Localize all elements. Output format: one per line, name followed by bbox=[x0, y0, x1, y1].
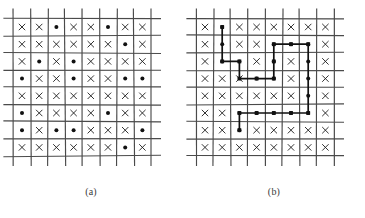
mark-x bbox=[202, 110, 208, 116]
path-node bbox=[220, 60, 224, 64]
grid-line-horizontal bbox=[3, 105, 161, 106]
mark-x bbox=[88, 58, 94, 64]
mark-x bbox=[202, 41, 208, 47]
mark-x bbox=[36, 24, 42, 30]
mark-x bbox=[253, 127, 259, 133]
panel-b-canvas bbox=[183, 0, 365, 188]
mark-x bbox=[122, 58, 128, 64]
grid-line-horizontal bbox=[186, 52, 344, 53]
mark-x bbox=[70, 110, 76, 116]
mark-x bbox=[271, 144, 277, 150]
mark-x bbox=[70, 144, 76, 150]
mark-x bbox=[219, 127, 225, 133]
mark-x bbox=[88, 75, 94, 81]
mark-x bbox=[19, 58, 25, 64]
mark-dot bbox=[72, 128, 76, 132]
mark-x bbox=[88, 41, 94, 47]
mark-x bbox=[19, 24, 25, 30]
mark-x bbox=[88, 24, 94, 30]
grid-line-horizontal bbox=[186, 104, 344, 105]
path-node bbox=[272, 42, 276, 46]
mark-x bbox=[139, 24, 145, 30]
mark-x bbox=[288, 58, 294, 64]
mark-x bbox=[70, 41, 76, 47]
mark-x bbox=[322, 58, 328, 64]
path-node bbox=[255, 111, 259, 115]
mark-x bbox=[219, 93, 225, 99]
mark-x bbox=[322, 144, 328, 150]
grid-line-horizontal bbox=[186, 121, 344, 122]
mark-x bbox=[202, 58, 208, 64]
mark-x bbox=[19, 144, 25, 150]
panel-a-grid-svg bbox=[0, 0, 182, 188]
mark-x bbox=[253, 24, 259, 30]
mark-x bbox=[305, 144, 311, 150]
panel-b: (b) bbox=[183, 0, 365, 218]
panel-b-caption: (b) bbox=[183, 186, 365, 197]
mark-x bbox=[19, 41, 25, 47]
mark-x bbox=[253, 144, 259, 150]
mark-x bbox=[219, 144, 225, 150]
mark-x bbox=[53, 144, 59, 150]
path-node bbox=[255, 77, 259, 81]
mark-x bbox=[36, 110, 42, 116]
mark-x bbox=[53, 58, 59, 64]
mark-x bbox=[139, 41, 145, 47]
panel-a-caption: (a) bbox=[0, 186, 182, 197]
mark-dot bbox=[123, 42, 127, 46]
panel-b-grid-svg bbox=[183, 0, 365, 188]
mark-x bbox=[253, 41, 259, 47]
mark-x bbox=[36, 127, 42, 133]
mark-x bbox=[236, 93, 242, 99]
mark-dot bbox=[123, 77, 127, 81]
path-node bbox=[289, 111, 293, 115]
mark-x bbox=[271, 93, 277, 99]
panel-a: (a) bbox=[0, 0, 182, 218]
mark-x bbox=[219, 110, 225, 116]
panel-a-canvas bbox=[0, 0, 182, 188]
mark-x bbox=[36, 93, 42, 99]
mark-dot bbox=[20, 77, 24, 81]
mark-dot bbox=[123, 145, 127, 149]
mark-dot bbox=[37, 59, 41, 63]
mark-x bbox=[105, 58, 111, 64]
path-node bbox=[238, 111, 242, 115]
mark-x bbox=[236, 41, 242, 47]
path-node bbox=[306, 42, 310, 46]
mark-x bbox=[202, 144, 208, 150]
mark-x bbox=[139, 110, 145, 116]
mark-x bbox=[322, 110, 328, 116]
mark-dot bbox=[140, 77, 144, 81]
mark-x bbox=[271, 24, 277, 30]
mark-x bbox=[88, 110, 94, 116]
mark-x bbox=[105, 127, 111, 133]
mark-x bbox=[53, 41, 59, 47]
mark-x bbox=[70, 93, 76, 99]
mark-x bbox=[288, 144, 294, 150]
mark-dot bbox=[106, 111, 110, 115]
mark-x bbox=[105, 41, 111, 47]
mark-x bbox=[88, 144, 94, 150]
mark-x bbox=[70, 24, 76, 30]
path-node bbox=[306, 111, 310, 115]
mark-dot bbox=[72, 59, 76, 63]
mark-x bbox=[219, 75, 225, 81]
mark-x bbox=[202, 75, 208, 81]
mark-x bbox=[122, 110, 128, 116]
mark-x bbox=[288, 24, 294, 30]
mark-x bbox=[53, 75, 59, 81]
mark-x bbox=[53, 93, 59, 99]
mark-x bbox=[88, 127, 94, 133]
path-node bbox=[272, 77, 276, 81]
mark-x bbox=[322, 93, 328, 99]
mark-x bbox=[322, 127, 328, 133]
figure-root: (a) (b) bbox=[0, 0, 365, 218]
mark-x bbox=[19, 93, 25, 99]
mark-x bbox=[322, 24, 328, 30]
grid-line-horizontal bbox=[186, 35, 344, 36]
mark-x bbox=[322, 75, 328, 81]
path-node bbox=[238, 77, 242, 81]
mark-dot bbox=[72, 77, 76, 81]
path-node bbox=[238, 60, 242, 64]
mark-x bbox=[253, 93, 259, 99]
